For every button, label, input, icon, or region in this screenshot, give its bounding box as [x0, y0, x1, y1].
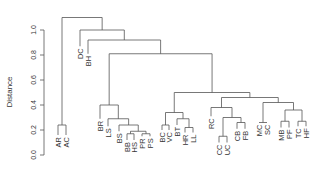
leaf-labels: ARACDCBHBRLSBSBBHSPRPSBCVCBTHRLLRCCCUCCB…: [54, 48, 311, 156]
leaf-label-uc: UC: [223, 144, 232, 155]
y-tick-label: 0.6: [30, 75, 37, 85]
y-tick-label: 0.2: [30, 125, 37, 135]
dendrogram-chart: 0.00.20.40.60.81.0 Distance ARACDCBHBRLS…: [0, 0, 321, 193]
leaf-label-rc: RC: [207, 118, 216, 129]
leaf-label-sc: SC: [263, 124, 272, 135]
leaf-label-hf: HF: [302, 128, 311, 138]
leaf-label-ls: LS: [104, 128, 113, 137]
y-axis: 0.00.20.40.60.81.0: [30, 25, 44, 160]
leaf-label-ps: PS: [146, 138, 155, 148]
y-tick-label: 1.0: [30, 25, 37, 35]
y-tick-label: 0.0: [30, 150, 37, 160]
y-tick-label: 0.8: [30, 50, 37, 60]
leaf-label-pf: PF: [285, 129, 294, 139]
leaf-label-ll: LL: [189, 135, 198, 143]
leaf-label-bh: BH: [84, 56, 93, 66]
y-tick-label: 0.4: [30, 100, 37, 110]
leaf-label-bs: BS: [115, 133, 124, 143]
leaf-label-fb: FB: [241, 131, 250, 141]
dendrogram-svg: 0.00.20.40.60.81.0 Distance ARACDCBHBRLS…: [0, 0, 321, 193]
leaf-label-ac: AC: [62, 136, 71, 147]
y-axis-label: Distance: [5, 76, 14, 108]
